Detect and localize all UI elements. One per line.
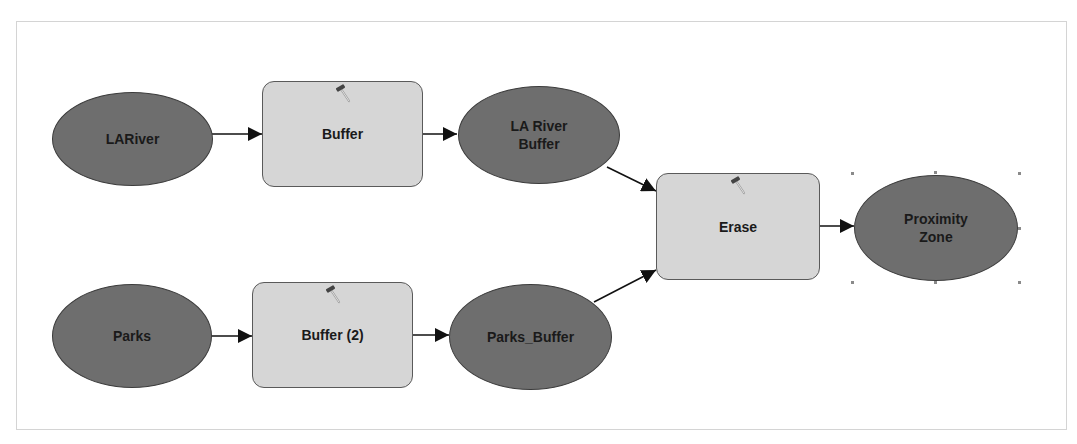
node-label: LA River Buffer: [510, 117, 567, 153]
node-parks-buffer[interactable]: Parks_Buffer: [449, 284, 612, 390]
selection-handle-e[interactable]: [1018, 227, 1021, 230]
selection-handle-sw[interactable]: [851, 281, 854, 284]
node-lariver-buffer[interactable]: LA River Buffer: [458, 86, 620, 184]
selection-handle-s[interactable]: [934, 281, 937, 284]
node-label: Parks: [113, 327, 151, 345]
node-label: Proximity Zone: [904, 210, 968, 246]
node-label: Buffer: [322, 125, 363, 143]
selection-handle-n[interactable]: [934, 171, 937, 174]
selection-handle-ne[interactable]: [1018, 172, 1021, 175]
node-lariver[interactable]: LARiver: [52, 92, 213, 186]
node-erase[interactable]: Erase: [656, 173, 820, 280]
node-parks[interactable]: Parks: [52, 284, 212, 388]
hammer-icon: [332, 83, 354, 105]
node-proximity-zone[interactable]: Proximity Zone: [854, 175, 1018, 281]
hammer-icon: [322, 284, 344, 306]
node-buffer-2[interactable]: Buffer (2): [252, 282, 413, 388]
node-label: Erase: [719, 218, 757, 236]
selection-handle-nw[interactable]: [851, 172, 854, 175]
node-label: Buffer (2): [301, 326, 363, 344]
hammer-icon: [727, 175, 749, 197]
node-label: LARiver: [106, 130, 160, 148]
node-buffer[interactable]: Buffer: [262, 81, 423, 187]
selection-handle-se[interactable]: [1018, 281, 1021, 284]
node-label: Parks_Buffer: [487, 328, 574, 346]
